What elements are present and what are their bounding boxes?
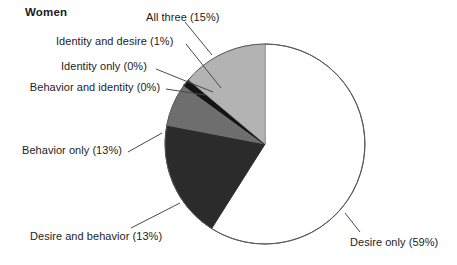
pie-label-identity-only: Identity only (0%) xyxy=(61,60,147,73)
leader-line-desire-and-behavior xyxy=(131,203,180,228)
pie-label-desire-only: Desire only (59%) xyxy=(350,236,438,249)
pie-label-desire-and-behavior: Desire and behavior (13%) xyxy=(30,230,162,243)
leader-line-behavior-only xyxy=(128,133,162,152)
leader-line-all-three xyxy=(185,22,212,55)
pie-label-behavior-only: Behavior only (13%) xyxy=(22,144,122,157)
pie-chart-figure: Women All three (15%) Identity and desir… xyxy=(0,0,457,265)
pie-label-all-three: All three (15%) xyxy=(146,11,220,24)
pie-label-identity-and-desire: Identity and desire (1%) xyxy=(56,35,173,48)
pie-label-behavior-and-identity: Behavior and identity (0%) xyxy=(29,81,161,94)
leader-line-desire-only xyxy=(345,213,360,232)
